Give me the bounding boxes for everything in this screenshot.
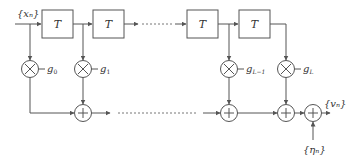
gain-label-L-1: gL−1: [246, 63, 265, 75]
input-label: {xₙ}: [17, 8, 39, 19]
multiplier-1: g1: [75, 61, 111, 78]
delay-block-2: T: [93, 10, 124, 38]
delay-block-1: T: [42, 10, 73, 38]
multiplier-L-1: gL−1: [221, 61, 266, 78]
noise-label: {ηₙ}: [303, 144, 326, 155]
noise-adder: [305, 105, 322, 122]
gain-label-1: g1: [100, 63, 110, 75]
adder-1: [75, 105, 92, 122]
adder-L: [278, 105, 295, 122]
multiplier-L: gL: [278, 61, 314, 78]
adder-L-1: [221, 105, 238, 122]
delay-block-3: T: [187, 10, 218, 38]
output-label: {vₙ}: [324, 98, 346, 109]
multiplier-0: g0: [22, 61, 58, 78]
path-g0-to-adder: [30, 78, 74, 114]
gain-label-L: gL: [303, 63, 313, 75]
gain-label-0: g0: [47, 63, 57, 75]
delay-block-4: T: [239, 10, 270, 38]
fir-filter-diagram: {xₙ} T T T T g0 g1: [0, 0, 355, 161]
